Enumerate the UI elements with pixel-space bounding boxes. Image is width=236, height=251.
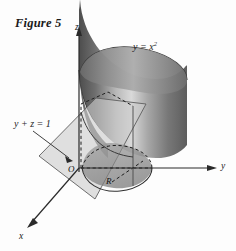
surface-equation-exponent: 2 [154,40,157,47]
plane-equation-label: y + z = 1 [14,118,51,129]
figure-5-diagram: Figure 5 z y x y = x2 y + z = 1 O R [0,0,236,251]
origin-label: O [68,164,75,174]
x-axis-label: x [19,231,23,241]
surface-equation-label: y = x2 [133,40,157,52]
z-axis-label: z [75,22,79,32]
page-title: Figure 5 [15,16,61,31]
y-axis-label: y [221,161,225,171]
x-axis [32,168,79,222]
region-R-label: R [106,176,112,186]
x-axis-arrowhead [27,218,38,228]
y-axis-arrowhead [207,165,217,171]
surface-equation-text: y = x [133,41,154,52]
